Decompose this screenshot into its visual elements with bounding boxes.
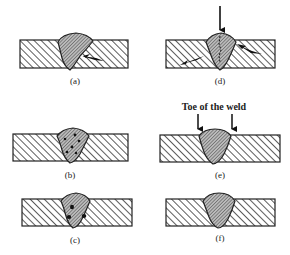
panel-c: (c)	[22, 193, 132, 245]
panel-f: (f)	[166, 193, 275, 243]
toe-of-weld-annotation: Toe of the weld	[182, 101, 247, 112]
panel-label: (a)	[70, 76, 80, 86]
panel-a: (a)	[20, 33, 128, 86]
panel-d: (d)	[166, 6, 275, 86]
panel-label: (b)	[65, 170, 76, 180]
panel-label: (f)	[216, 233, 225, 243]
panel-e: Toe of the weld (e)	[160, 101, 280, 180]
panel-b: (b)	[13, 128, 128, 180]
panel-label: (e)	[215, 170, 225, 180]
weld-defects-figure: (a) (b) (c) (d)	[0, 0, 290, 255]
panel-label: (c)	[70, 235, 80, 245]
panel-label: (d)	[215, 76, 226, 86]
